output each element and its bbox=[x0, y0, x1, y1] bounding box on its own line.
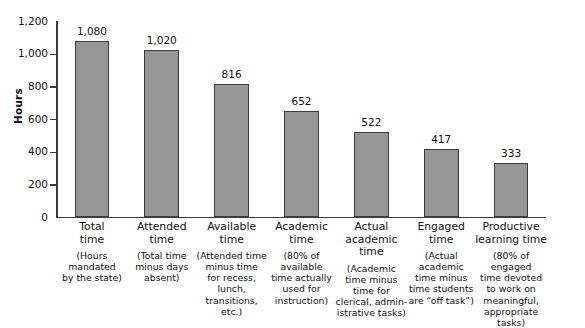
y-tick-text: 1,000 bbox=[4, 48, 48, 58]
bar[interactable] bbox=[494, 163, 529, 217]
y-tick-label: 400 bbox=[0, 146, 48, 156]
bar-value-label: 417 bbox=[410, 134, 473, 145]
y-tick-label: 1,200 bbox=[0, 16, 48, 26]
bar-value-label: 1,020 bbox=[130, 35, 193, 46]
category-description: (80% of engagedtime devotedto work onmea… bbox=[473, 250, 549, 328]
category-title: Engagedtime bbox=[403, 221, 479, 246]
bar-value-label: 522 bbox=[340, 117, 403, 128]
bar-value-label: 652 bbox=[270, 96, 333, 107]
y-tick-label: 1,000 bbox=[0, 48, 48, 58]
x-category-label: Productivelearning time(80% of engagedti… bbox=[473, 221, 549, 328]
bar-slot: 816 bbox=[214, 21, 249, 217]
y-tick-text: 800 bbox=[4, 81, 48, 91]
category-description: (Hoursmandatedby the state) bbox=[54, 250, 130, 283]
y-tick-label: 200 bbox=[0, 179, 48, 189]
x-category-label: Engagedtime(Actualacademictime minustime… bbox=[403, 221, 479, 306]
x-category-label: Availabletime(Attended timeminus timefor… bbox=[194, 221, 270, 317]
category-title: Availabletime bbox=[194, 221, 270, 246]
bar-slot: 522 bbox=[354, 21, 389, 217]
bar[interactable] bbox=[424, 149, 459, 217]
category-description: (Academictime minustime forclerical, adm… bbox=[333, 263, 409, 318]
bar-value-label: 333 bbox=[480, 148, 543, 159]
y-tick-label: 600 bbox=[0, 114, 48, 124]
category-description: (Total timeminus daysabsent) bbox=[124, 250, 200, 283]
y-tick-label: 800 bbox=[0, 81, 48, 91]
y-tick-text: 1,200 bbox=[4, 16, 48, 26]
bar-value-label: 1,080 bbox=[61, 26, 124, 37]
category-title: Productivelearning time bbox=[473, 221, 549, 246]
bar[interactable] bbox=[144, 50, 179, 217]
y-tick-label: 0 bbox=[0, 212, 48, 222]
category-title: Attendedtime bbox=[124, 221, 200, 246]
bar[interactable] bbox=[75, 41, 110, 217]
bar-slot: 333 bbox=[494, 21, 529, 217]
bar-value-label: 816 bbox=[200, 69, 263, 80]
bar[interactable] bbox=[214, 84, 249, 217]
x-axis-category-labels: Totaltime(Hoursmandatedby the state)Atte… bbox=[57, 221, 546, 316]
category-title: Totaltime bbox=[54, 221, 130, 246]
y-tick-text: 0 bbox=[4, 212, 48, 222]
bar[interactable] bbox=[284, 111, 319, 217]
x-category-label: Actualacademic time(Academictime minusti… bbox=[333, 221, 409, 318]
category-title: Actualacademic time bbox=[333, 221, 409, 259]
x-category-label: Totaltime(Hoursmandatedby the state) bbox=[54, 221, 130, 283]
bar-slot: 652 bbox=[284, 21, 319, 217]
bar-slot: 1,020 bbox=[144, 21, 179, 217]
category-description: (Actualacademictime minustime studentsar… bbox=[403, 250, 479, 305]
bar[interactable] bbox=[354, 132, 389, 217]
category-description: (Attended timeminus timefor recess, lunc… bbox=[194, 250, 270, 317]
x-category-label: Attendedtime(Total timeminus daysabsent) bbox=[124, 221, 200, 283]
bar-slot: 417 bbox=[424, 21, 459, 217]
y-tick-text: 400 bbox=[4, 146, 48, 156]
category-title: Academictime bbox=[264, 221, 340, 246]
y-tick-text: 600 bbox=[4, 114, 48, 124]
plot-area: 1,0801,020816652522417333 bbox=[57, 21, 546, 217]
category-description: (80% ofavailabletime actuallyused forins… bbox=[264, 250, 340, 305]
bar-slot: 1,080 bbox=[75, 21, 110, 217]
y-tick-text: 200 bbox=[4, 179, 48, 189]
x-category-label: Academictime(80% ofavailabletime actuall… bbox=[264, 221, 340, 306]
